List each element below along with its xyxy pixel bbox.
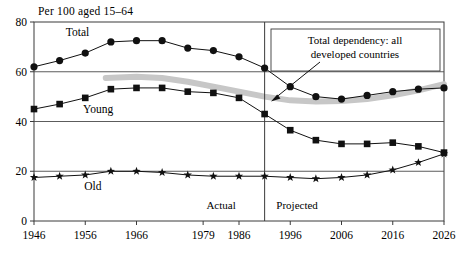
- marker-total-1: [56, 57, 63, 64]
- marker-young-6: [184, 88, 191, 95]
- marker-total-0: [30, 63, 37, 70]
- marker-total-7: [210, 47, 217, 54]
- marker-total-11: [312, 93, 319, 100]
- marker-young-3: [108, 86, 115, 93]
- actual-region-label: Actual: [206, 199, 235, 211]
- marker-young-0: [31, 106, 38, 113]
- marker-total-13: [364, 92, 371, 99]
- marker-total-3: [107, 38, 114, 45]
- x-tick-label-1979: 1979: [192, 229, 215, 241]
- projected-region-label: Projected: [276, 199, 318, 211]
- marker-total-6: [184, 45, 191, 52]
- annotation-line-1: Total dependency: all: [308, 34, 403, 46]
- marker-young-11: [313, 137, 320, 144]
- marker-young-13: [364, 141, 371, 148]
- series-label-old: Old: [84, 180, 102, 192]
- x-tick-label-1966: 1966: [125, 229, 148, 241]
- marker-total-15: [415, 86, 422, 93]
- x-tick-label-1956: 1956: [74, 229, 97, 241]
- marker-young-9: [261, 111, 268, 118]
- x-tick-label-2026: 2026: [433, 229, 456, 241]
- x-tick-label-1946: 1946: [23, 229, 46, 241]
- y-tick-label-40: 40: [16, 116, 28, 128]
- marker-young-12: [338, 141, 345, 148]
- series-label-young: Young: [83, 103, 113, 116]
- annotation-line-2: developed countries: [311, 48, 399, 60]
- chart-figure: Per 100 aged 15–64 020406080 19461956196…: [0, 0, 457, 259]
- marker-young-14: [389, 139, 396, 146]
- marker-young-2: [82, 95, 89, 102]
- x-tick-label-2016: 2016: [381, 229, 404, 241]
- marker-total-2: [82, 49, 89, 56]
- marker-young-8: [236, 95, 243, 102]
- marker-total-8: [235, 53, 242, 60]
- y-tick-label-0: 0: [21, 215, 27, 227]
- x-tick-label-2006: 2006: [330, 229, 353, 241]
- marker-young-1: [56, 101, 63, 108]
- marker-total-16: [440, 84, 447, 91]
- marker-total-4: [133, 37, 140, 44]
- series-label-total: Total: [66, 26, 89, 38]
- x-tick-label-1986: 1986: [228, 229, 251, 241]
- marker-young-4: [133, 85, 140, 92]
- x-tick-label-1996: 1996: [279, 229, 302, 241]
- y-tick-label-80: 80: [16, 16, 28, 28]
- marker-young-10: [287, 127, 294, 134]
- marker-total-9: [261, 64, 268, 71]
- marker-young-7: [210, 90, 217, 97]
- dependency-ratio-line-chart: Per 100 aged 15–64 020406080 19461956196…: [0, 0, 457, 259]
- marker-young-5: [159, 85, 166, 92]
- y-tick-label-20: 20: [16, 165, 28, 177]
- marker-total-14: [389, 88, 396, 95]
- chart-units-title: Per 100 aged 15–64: [38, 5, 133, 18]
- marker-young-15: [415, 143, 422, 150]
- marker-total-5: [159, 37, 166, 44]
- marker-total-12: [338, 96, 345, 103]
- y-tick-label-60: 60: [16, 66, 28, 78]
